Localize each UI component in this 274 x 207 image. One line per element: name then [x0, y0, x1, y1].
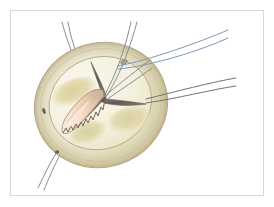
illustration-canvas: [0, 0, 274, 207]
aortic-valve-illustration: [0, 0, 274, 207]
